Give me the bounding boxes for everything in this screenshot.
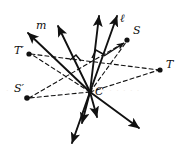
point-Sprime [24,95,30,101]
geometry-canvas [0,0,178,153]
label-line-l: ℓ [120,13,125,24]
point-T [157,67,162,72]
point-C [88,90,93,95]
geometry-figure: · · · · · · · · · · · · · · · · · · · · [0,0,178,153]
solid-rays-through-C [28,16,139,143]
label-point-Tprime: T′ [14,45,24,56]
ray-lower-inner-a [82,92,90,123]
point-S [124,37,129,42]
label-point-Sprime: S′ [14,83,24,94]
label-line-m: m [36,20,46,31]
point-Tprime [26,51,31,56]
ray-upper-left-inner [58,26,90,92]
label-point-C: C [95,86,103,97]
dashed-construction-lines [29,41,159,98]
label-point-S: S [133,25,141,36]
dashed-segment-Sprime-to-S [29,41,127,98]
label-point-T: T [166,59,173,70]
ray-m-upper-left [28,33,90,92]
